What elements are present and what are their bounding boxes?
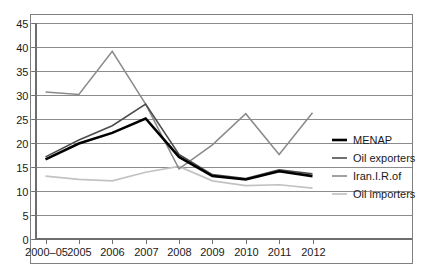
series-line-iran-i-r-of: [46, 51, 313, 169]
y-tick-label: 30: [16, 90, 28, 102]
chart-canvas: 051015202530354045 2000–0520052006200720…: [0, 0, 443, 279]
legend-label-2: Oil exporters: [353, 152, 416, 164]
x-tick-label: 2011: [268, 246, 292, 258]
series-line-menap: [46, 119, 313, 180]
y-tick-label: 10: [16, 186, 28, 198]
x-tick-label: 2010: [234, 246, 258, 258]
x-tick-label: 2009: [200, 246, 224, 258]
x-tick-label: 2000–05: [25, 246, 68, 258]
gridlines-group: [31, 24, 412, 240]
x-tick-label: 2012: [301, 246, 325, 258]
y-tick-label: 45: [16, 18, 28, 30]
line-chart: 051015202530354045 2000–0520052006200720…: [0, 0, 443, 279]
y-tick-label: 0: [22, 234, 28, 246]
y-tick-label: 15: [16, 162, 28, 174]
y-tick-label: 40: [16, 42, 28, 54]
legend-label-4: Oil importers: [353, 188, 416, 200]
legend-label-3: Iran.I.R.of: [353, 170, 402, 182]
x-axis-group: 2000–0520052006200720082009201020112012: [25, 239, 412, 258]
y-axis-group: 051015202530354045: [16, 18, 36, 246]
x-tick-label: 2006: [100, 246, 124, 258]
x-tick-label: 2007: [134, 246, 158, 258]
y-tick-label: 35: [16, 66, 28, 78]
y-tick-label: 5: [22, 210, 28, 222]
y-tick-label: 20: [16, 138, 28, 150]
x-tick-label: 2008: [167, 246, 191, 258]
legend-label-1: MENAP: [353, 134, 392, 146]
x-tick-label: 2005: [67, 246, 91, 258]
y-tick-label: 25: [16, 114, 28, 126]
